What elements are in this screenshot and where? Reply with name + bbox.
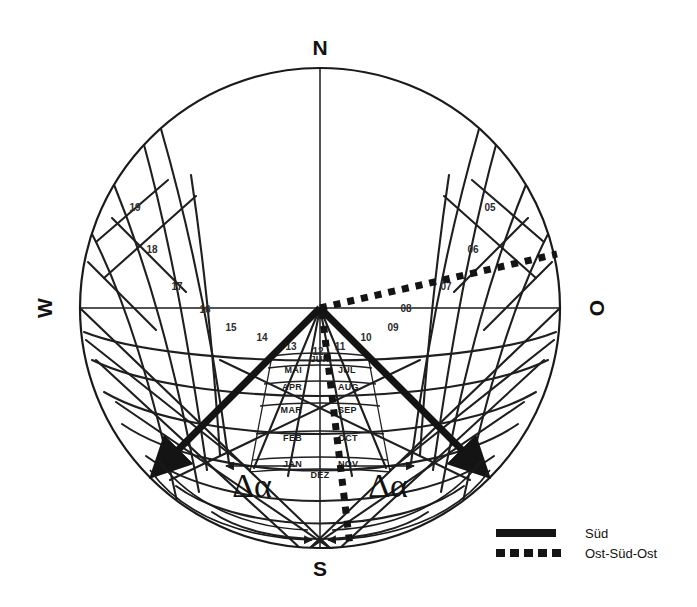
compass-label-north: N xyxy=(312,36,327,59)
month-label-jul: JUL xyxy=(338,365,356,375)
month-label-apr: APR xyxy=(282,382,302,392)
month-label-dez: DEZ xyxy=(311,470,330,480)
hour-label-10: 10 xyxy=(360,332,372,343)
hour-label-18: 18 xyxy=(146,244,158,255)
legend-label-sued: Süd xyxy=(585,526,608,541)
hour-label-05: 05 xyxy=(484,202,496,213)
compass-label-west: W xyxy=(33,298,56,318)
legend-swatch-ost-sued-ost xyxy=(496,549,561,557)
delta-alpha-label-left: Δα xyxy=(232,467,272,504)
sun-path-svg: N S W O 05 06 07 08 09 10 11 12 13 14 15… xyxy=(0,0,697,607)
sun-path-diagram-figure: N S W O 05 06 07 08 09 10 11 12 13 14 15… xyxy=(0,0,697,607)
hour-label-06: 06 xyxy=(467,244,479,255)
hour-label-08: 08 xyxy=(400,303,412,314)
compass-label-south: S xyxy=(313,557,327,580)
month-label-feb: FEB xyxy=(283,433,302,443)
hour-label-09: 09 xyxy=(387,322,399,333)
hour-label-14: 14 xyxy=(256,332,268,343)
month-label-jan: JAN xyxy=(283,459,302,469)
month-label-sep: SEP xyxy=(338,405,357,415)
hour-label-15: 15 xyxy=(225,322,237,333)
compass-label-east: O xyxy=(585,300,608,316)
hour-label-16: 16 xyxy=(199,304,211,315)
month-label-aug: AUG xyxy=(338,382,359,392)
legend-label-ost-sued-ost: Ost-Süd-Ost xyxy=(585,546,658,561)
hour-label-11: 11 xyxy=(335,341,346,352)
hour-label-19: 19 xyxy=(129,202,141,213)
delta-alpha-label-right: Δα xyxy=(368,467,408,504)
hour-label-17: 17 xyxy=(171,281,183,292)
month-label-mar: MAR xyxy=(281,405,303,415)
legend: Süd Ost-Süd-Ost xyxy=(496,526,658,561)
legend-swatch-sued xyxy=(496,529,556,537)
month-label-mai: MAI xyxy=(285,365,302,375)
